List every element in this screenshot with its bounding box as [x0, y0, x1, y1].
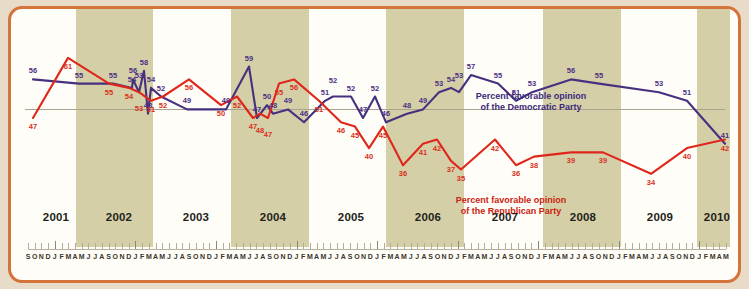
- month-label: J: [415, 253, 419, 260]
- month-label: M: [146, 253, 152, 260]
- month-tick: [317, 243, 318, 249]
- month-label: A: [502, 253, 507, 260]
- month-tick: [115, 243, 116, 249]
- month-label: A: [260, 253, 265, 260]
- month-label: F: [301, 253, 305, 260]
- month-tick: [243, 243, 244, 249]
- month-tick: [558, 243, 559, 249]
- month-label: D: [368, 253, 373, 260]
- month-tick: [303, 243, 304, 249]
- month-tick: [531, 243, 532, 249]
- month-label: N: [119, 253, 124, 260]
- month-tick: [511, 243, 512, 249]
- month-tick: [189, 243, 190, 249]
- month-tick: [216, 241, 217, 249]
- month-tick: [283, 243, 284, 249]
- month-tick: [464, 243, 465, 249]
- month-tick: [726, 243, 727, 249]
- month-tick: [377, 241, 378, 249]
- month-label: A: [583, 253, 588, 260]
- month-tick: [149, 243, 150, 249]
- month-label: J: [214, 253, 218, 260]
- month-tick: [176, 243, 177, 249]
- month-tick: [142, 243, 143, 249]
- month-tick: [48, 243, 49, 249]
- year-label: 2009: [647, 211, 673, 223]
- month-tick: [619, 241, 620, 249]
- month-tick: [484, 243, 485, 249]
- month-axis-line: [28, 249, 726, 250]
- month-label: M: [79, 253, 85, 260]
- year-label: 2010: [704, 211, 730, 223]
- year-axis: 2001200220032004200520062007200820092010: [11, 9, 738, 280]
- month-tick: [196, 243, 197, 249]
- month-label: O: [515, 253, 520, 260]
- month-tick: [471, 243, 472, 249]
- month-tick: [263, 243, 264, 249]
- month-label: S: [106, 253, 111, 260]
- month-tick: [343, 243, 344, 249]
- month-tick: [585, 243, 586, 249]
- month-tick: [276, 243, 277, 249]
- month-tick: [713, 243, 714, 249]
- month-tick: [404, 243, 405, 249]
- month-label: J: [489, 253, 493, 260]
- month-label: J: [375, 253, 379, 260]
- month-label: M: [549, 253, 555, 260]
- month-label: D: [287, 253, 292, 260]
- month-label: O: [435, 253, 440, 260]
- month-label: J: [295, 253, 299, 260]
- month-label: O: [113, 253, 118, 260]
- month-label: A: [72, 253, 77, 260]
- month-tick: [632, 243, 633, 249]
- month-label: O: [676, 253, 681, 260]
- month-tick: [256, 243, 257, 249]
- month-tick: [679, 243, 680, 249]
- month-tick: [719, 243, 720, 249]
- year-label: 2005: [338, 211, 364, 223]
- month-label: J: [248, 253, 252, 260]
- month-label: F: [382, 253, 386, 260]
- month-tick: [666, 243, 667, 249]
- month-tick: [169, 243, 170, 249]
- month-label: N: [361, 253, 366, 260]
- month-tick: [437, 243, 438, 249]
- month-tick: [209, 243, 210, 249]
- month-tick: [75, 243, 76, 249]
- month-label: A: [153, 253, 158, 260]
- month-label: D: [126, 253, 131, 260]
- month-label: F: [543, 253, 547, 260]
- month-tick: [250, 243, 251, 249]
- month-label: O: [274, 253, 279, 260]
- month-label: S: [187, 253, 192, 260]
- month-tick: [290, 243, 291, 249]
- month-tick: [625, 243, 626, 249]
- month-tick: [639, 243, 640, 249]
- month-label: J: [496, 253, 500, 260]
- month-label: S: [589, 253, 594, 260]
- month-label: J: [536, 253, 540, 260]
- month-tick: [592, 243, 593, 249]
- month-label: N: [280, 253, 285, 260]
- month-tick: [350, 243, 351, 249]
- month-tick: [28, 243, 29, 249]
- month-label: S: [26, 253, 31, 260]
- month-tick: [88, 243, 89, 249]
- month-tick: [156, 243, 157, 249]
- month-tick: [236, 243, 237, 249]
- month-label: J: [86, 253, 90, 260]
- month-label: S: [348, 253, 353, 260]
- month-tick: [95, 243, 96, 249]
- month-label: J: [335, 253, 339, 260]
- month-label: M: [710, 253, 716, 260]
- month-label: F: [140, 253, 144, 260]
- month-label: M: [562, 253, 568, 260]
- month-label: D: [46, 253, 51, 260]
- month-label: M: [387, 253, 393, 260]
- month-label: F: [623, 253, 627, 260]
- month-tick: [397, 243, 398, 249]
- month-tick: [706, 243, 707, 249]
- month-tick: [223, 243, 224, 249]
- month-label: F: [704, 253, 708, 260]
- month-tick: [270, 243, 271, 249]
